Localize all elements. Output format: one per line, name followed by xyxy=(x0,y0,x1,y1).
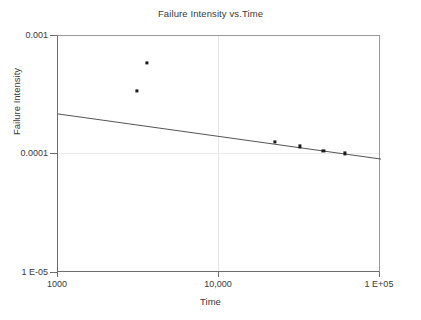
data-point xyxy=(145,62,148,65)
trend-line-segment xyxy=(58,114,381,159)
chart-container: Failure Intensity vs.Time Failure Intens… xyxy=(0,0,421,320)
y-tick-label-1: 0.0001 xyxy=(20,148,48,158)
x-tick-label-1: 10,000 xyxy=(188,279,248,289)
chart-title: Failure Intensity vs.Time xyxy=(0,8,421,19)
plot-area xyxy=(57,35,380,272)
data-point xyxy=(322,149,325,152)
data-point xyxy=(135,89,138,92)
x-tick-label-2: 1 E+05 xyxy=(349,279,409,289)
y-tick-label-2: 1 E-05 xyxy=(21,267,48,277)
data-point xyxy=(344,152,347,155)
y-axis-title: Failure Intensity xyxy=(11,42,22,162)
x-tick-label-0: 1000 xyxy=(27,279,87,289)
x-axis-title: Time xyxy=(0,296,421,307)
trend-line xyxy=(58,36,381,273)
data-point xyxy=(273,141,276,144)
y-tick-label-0: 0.001 xyxy=(25,30,48,40)
data-point xyxy=(298,145,301,148)
